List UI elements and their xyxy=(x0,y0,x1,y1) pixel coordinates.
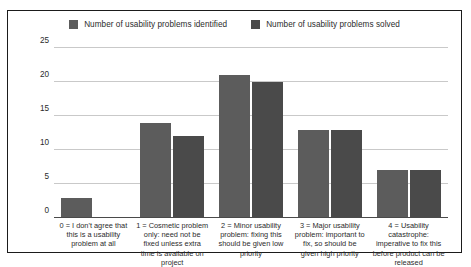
bar xyxy=(410,170,441,218)
legend-label-identified: Number of usability problems identified xyxy=(84,20,227,29)
bar xyxy=(61,198,92,218)
x-axis-category-label: 0 = I don't agree that this is a usabili… xyxy=(54,221,133,267)
x-axis-line xyxy=(54,217,448,218)
legend-entry-solved: Number of usability problems solved xyxy=(251,20,400,29)
bar xyxy=(252,82,283,218)
bar-group xyxy=(290,48,369,218)
bar-groups xyxy=(54,48,448,218)
legend-swatch-identified xyxy=(69,20,78,29)
x-axis-category-labels: 0 = I don't agree that this is a usabili… xyxy=(54,221,448,267)
bar-group xyxy=(54,48,133,218)
bar xyxy=(377,170,408,218)
bar-group xyxy=(133,48,212,218)
bar-group xyxy=(369,48,448,218)
chart-legend: Number of usability problems identified … xyxy=(8,20,461,29)
y-axis-tick-label: 10 xyxy=(40,137,49,146)
legend-label-solved: Number of usability problems solved xyxy=(266,20,400,29)
y-axis-tick-label: 20 xyxy=(40,69,49,78)
x-axis-category-label: 1 = Cosmetic problem only: need not be f… xyxy=(133,221,212,267)
y-axis-tick-label: 0 xyxy=(44,205,49,214)
bar-group xyxy=(212,48,291,218)
x-axis-category-label: 3 = Major usability problem: important t… xyxy=(290,221,369,267)
bar xyxy=(298,130,329,218)
x-axis-category-label: 2 = Minor usability problem: fixing this… xyxy=(212,221,291,267)
plot-area: 0510152025 xyxy=(54,48,448,218)
y-axis-tick-label: 5 xyxy=(44,171,49,180)
bar xyxy=(140,123,171,218)
bar xyxy=(219,75,250,218)
x-axis-category-label: 4 = Usability catastrophe: imperative to… xyxy=(369,221,448,267)
chart-frame: Number of usability problems identified … xyxy=(7,10,462,253)
y-axis-tick-label: 25 xyxy=(40,35,49,44)
bar xyxy=(173,136,204,218)
legend-entry-identified: Number of usability problems identified xyxy=(69,20,227,29)
y-axis-tick-label: 15 xyxy=(40,103,49,112)
legend-swatch-solved xyxy=(251,20,260,29)
bar xyxy=(331,130,362,218)
